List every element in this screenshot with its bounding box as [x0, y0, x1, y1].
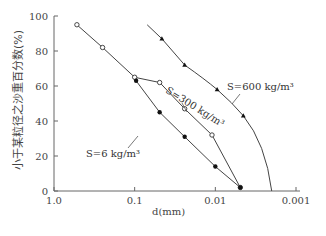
x-tick-label: 0.01	[204, 195, 226, 206]
y-tick-label: 20	[35, 151, 48, 162]
filled-circle-marker	[134, 79, 138, 83]
y-tick-label: 80	[35, 46, 48, 57]
annotation-s600: S=600 kg/m³	[227, 81, 294, 92]
y-axis-label: 小于某粒径之沙重百分数(%)	[11, 30, 25, 170]
annotation-s6: S=6 kg/m³	[86, 148, 140, 159]
x-tick-label: 0.001	[282, 195, 311, 206]
open-circle-marker	[100, 45, 104, 49]
filled-circle-marker	[213, 164, 217, 168]
y-tick-label: 60	[35, 81, 48, 92]
filled-circle-marker	[157, 110, 161, 114]
grain-size-chart: 0204060801001.00.10.010.001 S=6 kg/m³ S=…	[0, 0, 326, 236]
filled-circle-marker	[238, 185, 242, 189]
axes: 0204060801001.00.10.010.001	[29, 11, 310, 207]
y-tick-label: 100	[29, 11, 48, 22]
series-line	[147, 25, 272, 191]
x-axis-label: d(mm)	[152, 206, 185, 217]
annotations: S=6 kg/m³ S=300 kg/m³ S=600 kg/m³	[86, 81, 294, 159]
x-tick-label: 0.1	[127, 195, 143, 206]
x-tick-label: 1.0	[46, 195, 62, 206]
y-tick-label: 40	[35, 116, 48, 127]
filled-circle-marker	[182, 135, 186, 139]
open-circle-marker	[210, 133, 214, 137]
series-layer	[75, 23, 272, 191]
open-circle-marker	[157, 80, 161, 84]
open-circle-marker	[75, 23, 79, 27]
